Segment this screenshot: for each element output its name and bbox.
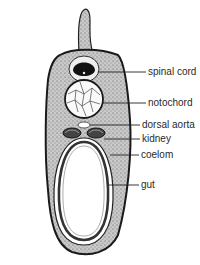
- label-kidney: kidney: [142, 134, 171, 144]
- label-spinal-cord: spinal cord: [148, 67, 196, 77]
- label-gut: gut: [141, 180, 155, 190]
- dorsal-aorta-shape: [78, 122, 90, 128]
- label-dorsal-aorta: dorsal aorta: [142, 120, 195, 130]
- diagram-canvas: spinal cord notochord dorsal aorta kidne…: [0, 0, 200, 265]
- label-notochord: notochord: [148, 98, 192, 108]
- label-coelom: coelom: [141, 150, 173, 160]
- dorsal-fin-stalk: [78, 9, 93, 52]
- notochord-shape: [65, 80, 103, 118]
